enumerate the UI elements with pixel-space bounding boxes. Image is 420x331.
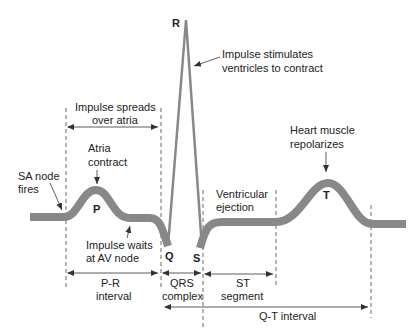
annotation-impulse-stimulates-2: ventricles to contract xyxy=(222,62,323,74)
annotation-atria: Atria xyxy=(88,142,112,154)
annotation-impulse-spreads-2: over atria xyxy=(92,114,139,126)
annotation-atria-contract: contract xyxy=(88,156,127,168)
wave-label-s: S xyxy=(193,252,200,264)
st-label: ST xyxy=(236,277,250,289)
qt-interval-label: Q-T interval xyxy=(259,310,316,322)
wave-label-r: R xyxy=(172,17,180,29)
annotation-sa-node: SA node xyxy=(18,170,60,182)
qrs-label: QRS xyxy=(170,277,194,289)
annotation-impulse-spreads: Impulse spreads xyxy=(75,101,156,113)
pr-interval-label: interval xyxy=(96,290,131,302)
annotation-heart-muscle: Heart muscle xyxy=(290,124,355,136)
arrow-av-node xyxy=(127,226,130,238)
qrs-complex-label: complex xyxy=(162,290,203,302)
annotation-ejection: ejection xyxy=(216,201,254,213)
arrow-to-r xyxy=(194,57,220,66)
st-segment-label: segment xyxy=(221,290,263,302)
annotation-ventricular: Ventricular xyxy=(216,188,268,200)
pr-label: P-R xyxy=(101,277,120,289)
wave-label-q: Q xyxy=(165,250,174,262)
arrow-sa-node xyxy=(50,183,62,210)
annotation-sa-node-fires: fires xyxy=(18,183,39,195)
wave-label-p: P xyxy=(93,203,100,215)
ecg-diagram: P Q R S T Impulse stimulates ventricles … xyxy=(0,0,420,331)
wave-label-t: T xyxy=(323,189,330,201)
annotation-impulse-stimulates: Impulse stimulates xyxy=(222,48,314,60)
annotation-impulse-waits-2: at AV node xyxy=(86,252,139,264)
annotation-impulse-waits: Impulse waits xyxy=(86,239,153,251)
annotation-repolarizes: repolarizes xyxy=(290,138,344,150)
